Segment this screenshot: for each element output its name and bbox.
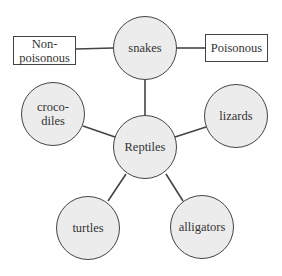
reptiles-concept-map: Non- poisonous Poisonous snakes croco- d…	[0, 0, 282, 276]
edge-reptiles-crocodiles	[83, 126, 115, 137]
node-label: Reptiles	[125, 140, 166, 154]
node-label: croco- diles	[37, 100, 69, 128]
node-reptiles: Reptiles	[113, 115, 177, 179]
box-label: Non- poisonous	[19, 37, 70, 65]
edge-reptiles-turtles	[108, 174, 126, 201]
node-label: lizards	[219, 109, 252, 123]
node-crocodiles: croco- diles	[21, 82, 85, 146]
node-label: turtles	[72, 221, 103, 235]
node-snakes: snakes	[113, 16, 177, 80]
box-label: Poisonous	[211, 41, 262, 55]
node-alligators: alligators	[170, 195, 234, 259]
node-label: snakes	[128, 41, 161, 55]
node-label: alligators	[179, 220, 226, 234]
node-lizards: lizards	[204, 84, 268, 148]
edge-reptiles-alligators	[166, 174, 183, 201]
box-poisonous: Poisonous	[205, 34, 268, 62]
edge-reptiles-lizards	[175, 127, 206, 137]
node-turtles: turtles	[56, 196, 120, 260]
box-non-poisonous: Non- poisonous	[13, 36, 76, 65]
edge-snakes-non-poisonous	[76, 48, 113, 49]
